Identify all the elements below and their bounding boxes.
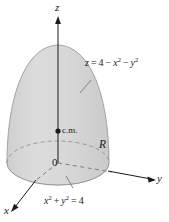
center-of-mass-label: c.m. [62,126,78,135]
surface-eq-minus2: − [123,57,129,68]
z-axis-arrowhead [55,16,61,24]
center-of-mass-dot [55,128,60,133]
base-eq-exponent-x: 2 [48,194,51,201]
x-axis-arrowhead [11,204,19,212]
figure-canvas [0,0,169,222]
surface-eq-minus1: − [106,57,112,68]
region-label: R [99,139,106,151]
surface-eq-exponent-x: 2 [118,56,121,63]
surface-eq-exponent-y: 2 [135,56,138,63]
paraboloid-figure: z y x 0 c.m. R z=4−x2−y2 x2+y2=4 [0,0,169,222]
origin-label: 0 [52,157,58,168]
base-eq-four: 4 [79,195,84,206]
surface-equation-label: z=4−x2−y2 [85,58,138,68]
surface-eq-z: z [85,57,89,68]
x-axis-line [15,180,36,207]
base-equation-label: x2+y2=4 [44,196,84,206]
x-axis-label: x [4,205,9,216]
z-axis-label: z [55,2,59,13]
base-eq-exponent-y: 2 [66,194,69,201]
y-axis-label: y [157,173,162,184]
surface-eq-four: 4 [99,57,104,68]
base-eq-plus: + [54,195,60,206]
surface-eq-equals: = [91,57,97,68]
y-axis-line [108,171,151,179]
y-axis-arrowhead [148,177,157,183]
base-eq-equals: = [71,195,77,206]
